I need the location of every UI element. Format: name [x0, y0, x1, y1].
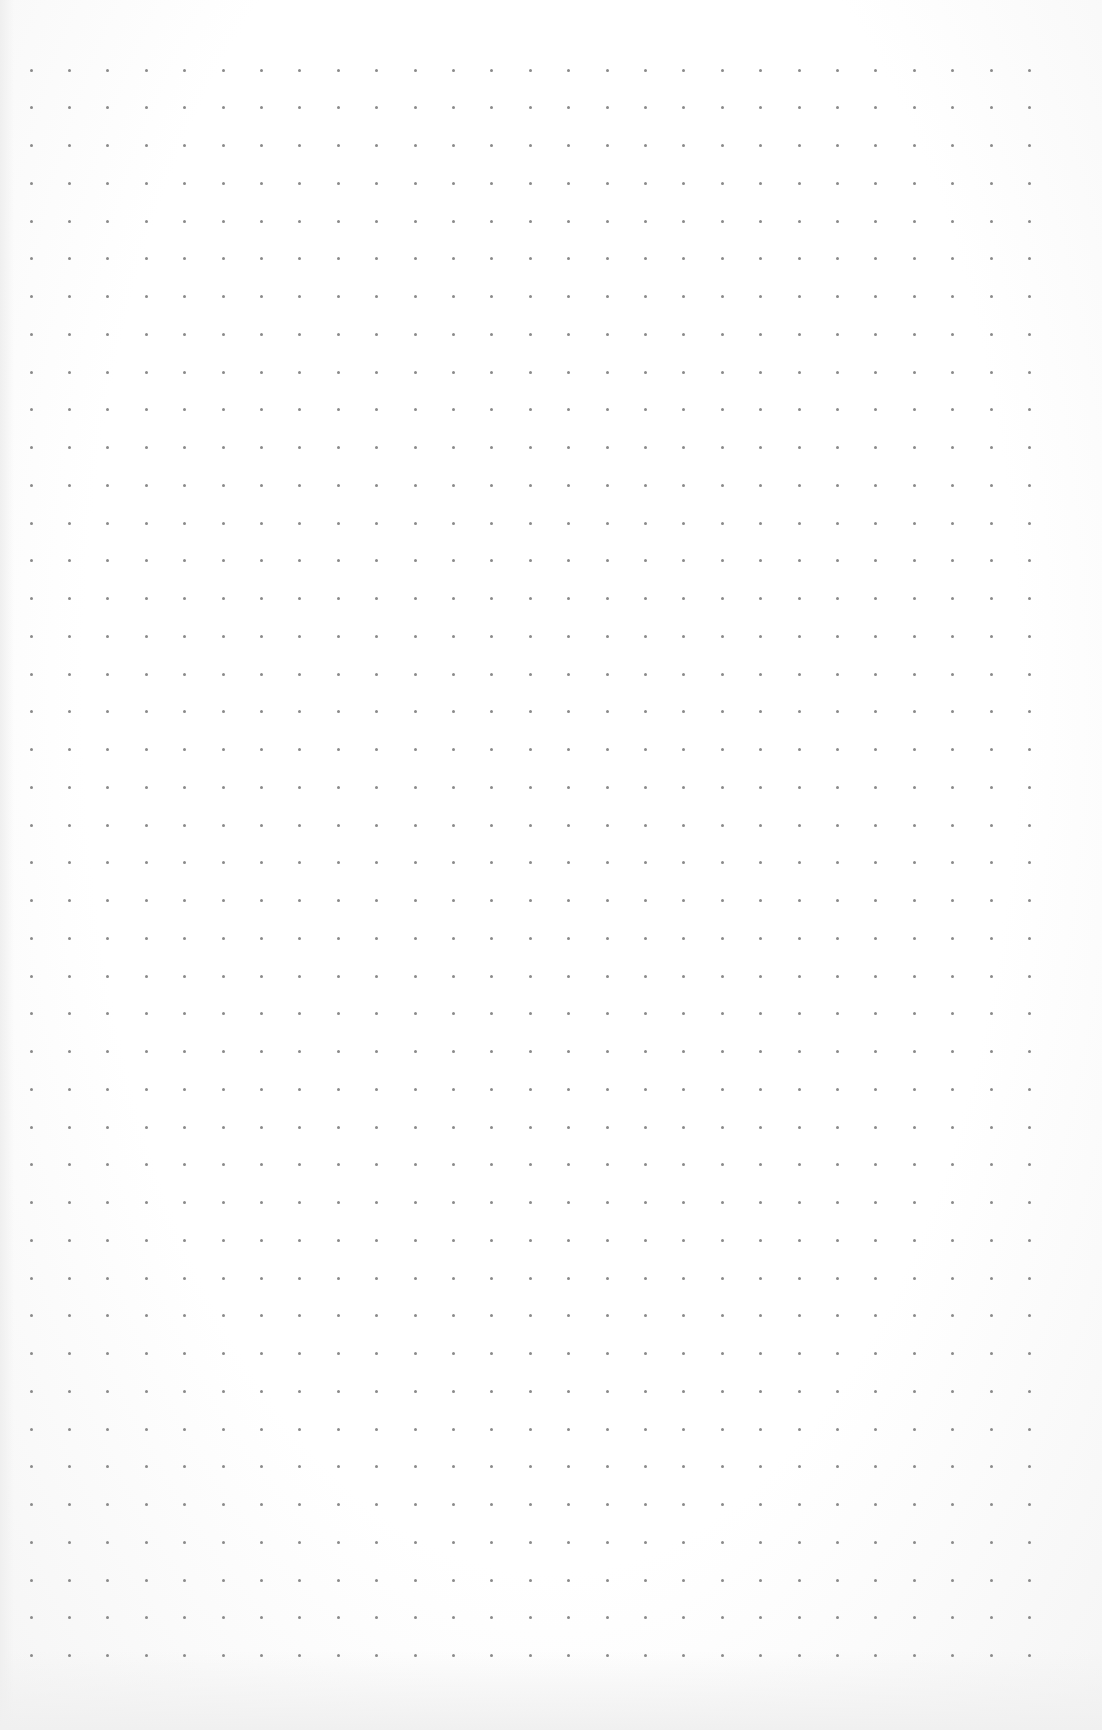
- grid-dot: [1028, 1352, 1031, 1355]
- grid-dot: [298, 333, 301, 336]
- grid-dot: [222, 559, 225, 562]
- grid-dot: [68, 786, 71, 789]
- grid-dot: [951, 861, 954, 864]
- grid-dot: [337, 1579, 340, 1582]
- grid-dot: [1028, 1088, 1031, 1091]
- grid-dot: [145, 1088, 148, 1091]
- grid-dot: [30, 1012, 33, 1015]
- grid-dot: [260, 484, 263, 487]
- grid-dot: [606, 106, 609, 109]
- grid-dot: [990, 1541, 993, 1544]
- grid-dot: [567, 1201, 570, 1204]
- grid-dot: [874, 1126, 877, 1129]
- grid-dot: [759, 1503, 762, 1506]
- grid-dot: [222, 1579, 225, 1582]
- grid-dot: [260, 295, 263, 298]
- grid-dot: [1028, 1390, 1031, 1393]
- grid-dot: [836, 371, 839, 374]
- grid-dot: [106, 1126, 109, 1129]
- grid-dot: [644, 899, 647, 902]
- grid-dot: [721, 559, 724, 562]
- grid-dot: [529, 1012, 532, 1015]
- grid-dot: [644, 1390, 647, 1393]
- grid-dot: [298, 1314, 301, 1317]
- grid-dot: [68, 182, 71, 185]
- grid-dot: [990, 1352, 993, 1355]
- grid-dot: [913, 371, 916, 374]
- grid-dot: [183, 1126, 186, 1129]
- grid-dot: [260, 69, 263, 72]
- grid-dot: [452, 408, 455, 411]
- grid-dot: [298, 522, 301, 525]
- grid-dot: [874, 1163, 877, 1166]
- grid-dot: [682, 1503, 685, 1506]
- grid-dot: [1028, 635, 1031, 638]
- grid-dot: [68, 710, 71, 713]
- grid-dot: [337, 673, 340, 676]
- grid-dot: [106, 1239, 109, 1242]
- grid-dot: [913, 333, 916, 336]
- grid-dot: [798, 106, 801, 109]
- grid-dot: [183, 333, 186, 336]
- grid-dot: [414, 446, 417, 449]
- grid-dot: [183, 1352, 186, 1355]
- grid-dot: [30, 1126, 33, 1129]
- grid-dot: [913, 1126, 916, 1129]
- grid-dot: [951, 1163, 954, 1166]
- grid-dot: [260, 257, 263, 260]
- grid-dot: [567, 597, 570, 600]
- grid-dot: [606, 446, 609, 449]
- grid-dot: [68, 69, 71, 72]
- grid-dot: [836, 484, 839, 487]
- grid-dot: [183, 484, 186, 487]
- grid-dot: [375, 861, 378, 864]
- grid-dot: [375, 1616, 378, 1619]
- grid-dot: [682, 824, 685, 827]
- grid-dot: [682, 333, 685, 336]
- grid-dot: [145, 1277, 148, 1280]
- grid-dot: [106, 182, 109, 185]
- grid-dot: [452, 786, 455, 789]
- grid-dot: [222, 1239, 225, 1242]
- grid-dot: [951, 446, 954, 449]
- grid-dot: [414, 1428, 417, 1431]
- grid-dot: [30, 333, 33, 336]
- grid-dot: [721, 710, 724, 713]
- grid-dot: [452, 748, 455, 751]
- grid-dot: [490, 786, 493, 789]
- grid-dot: [337, 522, 340, 525]
- grid-dot: [68, 1579, 71, 1582]
- grid-dot: [490, 1352, 493, 1355]
- grid-dot: [68, 673, 71, 676]
- grid-dot: [337, 1050, 340, 1053]
- grid-dot: [375, 371, 378, 374]
- grid-dot: [145, 559, 148, 562]
- grid-dot: [260, 1428, 263, 1431]
- grid-dot: [414, 1012, 417, 1015]
- grid-dot: [721, 899, 724, 902]
- grid-dot: [260, 1088, 263, 1091]
- grid-dot: [490, 408, 493, 411]
- grid-dot: [452, 1390, 455, 1393]
- grid-dot: [567, 446, 570, 449]
- grid-dot: [222, 635, 225, 638]
- grid-dot: [606, 1465, 609, 1468]
- grid-dot: [145, 861, 148, 864]
- grid-dot: [183, 899, 186, 902]
- grid-dot: [644, 1465, 647, 1468]
- grid-dot: [759, 937, 762, 940]
- grid-dot: [990, 748, 993, 751]
- grid-dot: [682, 408, 685, 411]
- grid-dot: [682, 69, 685, 72]
- grid-dot: [567, 559, 570, 562]
- grid-dot: [759, 861, 762, 864]
- grid-dot: [337, 1088, 340, 1091]
- grid-dot: [490, 446, 493, 449]
- grid-dot: [836, 1126, 839, 1129]
- grid-dot: [414, 899, 417, 902]
- grid-dot: [375, 1050, 378, 1053]
- grid-dot: [183, 182, 186, 185]
- grid-dot: [337, 559, 340, 562]
- grid-dot: [567, 144, 570, 147]
- grid-dot: [567, 371, 570, 374]
